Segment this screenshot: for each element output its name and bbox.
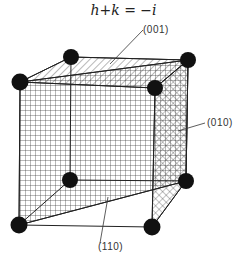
atom-bottom-back-left	[62, 172, 78, 188]
atom-top-back-right	[180, 52, 196, 68]
label-plane-010: (010)	[207, 117, 233, 128]
atom-top-front-left	[12, 74, 29, 91]
atom-top-back-left	[63, 49, 79, 65]
label-plane-110: (110)	[98, 241, 123, 252]
atom-top-front-right	[147, 80, 163, 96]
atom-bottom-back-right	[178, 173, 194, 189]
atom-bottom-front-left	[11, 217, 28, 234]
atom-bottom-front-right	[144, 219, 161, 236]
label-plane-001: (001)	[143, 24, 169, 35]
